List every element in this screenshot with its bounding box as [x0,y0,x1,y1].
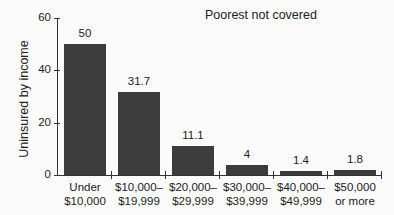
category-label: Under$10,000 [55,180,115,208]
category-label: $50,000or more [325,180,385,208]
category-label-line: $40,000– [271,180,331,194]
y-tick-label: 40 [21,63,51,75]
value-label: 1.4 [281,154,321,166]
category-label-line: $30,000– [217,180,277,194]
y-axis-label: Uninsured by income [17,39,31,159]
category-label: $20,000–$29,999 [163,180,223,208]
category-label-line: $10,000 [55,194,115,208]
x-tick [273,171,274,179]
bar [64,44,106,175]
value-label: 31.7 [119,75,159,87]
y-tick [54,70,60,71]
y-tick [54,175,60,176]
category-label: $30,000–$39,999 [217,180,277,208]
bar [172,146,214,175]
x-tick [219,171,220,179]
category-label: $40,000–$49,999 [271,180,331,208]
category-label-line: Under [55,180,115,194]
category-label: $10,000–$19,999 [109,180,169,208]
category-label-line: $10,000– [109,180,169,194]
category-label-line: $20,000– [163,180,223,194]
value-label: 11.1 [173,129,213,141]
y-tick [54,123,60,124]
bar [118,92,160,175]
category-label-line: $29,999 [163,194,223,208]
bar [280,171,322,175]
x-tick [381,171,382,179]
x-tick [327,171,328,179]
bar [226,165,268,175]
category-label-line: $50,000 [325,180,385,194]
y-tick-label: 20 [21,116,51,128]
x-tick [111,171,112,179]
y-axis [57,18,58,176]
chart-title: Poorest not covered [205,8,317,22]
y-tick-label: 60 [21,11,51,23]
bar [334,170,376,175]
category-label-line: $19,999 [109,194,169,208]
y-tick [54,18,60,19]
value-label: 4 [227,148,267,160]
category-label-line: $49,999 [271,194,331,208]
value-label: 50 [65,27,105,39]
y-tick-label: 0 [21,168,51,180]
x-tick [165,171,166,179]
value-label: 1.8 [335,153,375,165]
category-label-line: or more [325,194,385,208]
category-label-line: $39,999 [217,194,277,208]
